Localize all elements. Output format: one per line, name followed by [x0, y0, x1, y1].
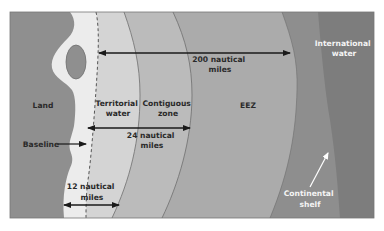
label-land: Land [33, 101, 54, 110]
island [66, 45, 86, 79]
label-baseline: Baseline [23, 140, 59, 149]
label-eez: EEZ [240, 101, 256, 110]
maritime-zones-diagram: Land Territorial water Contiguous zone E… [0, 0, 384, 231]
